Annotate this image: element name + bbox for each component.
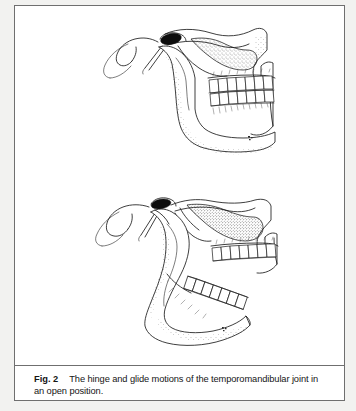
caption-body: The hinge and glide motions of the tempo… bbox=[34, 374, 318, 396]
lower-teeth-open bbox=[183, 272, 249, 313]
anatomy-illustrations bbox=[15, 6, 344, 365]
figure-frame: Fig. 2The hinge and glide motions of the… bbox=[14, 5, 345, 401]
illustration-area bbox=[15, 6, 344, 365]
figure-label: Fig. 2 bbox=[34, 374, 58, 384]
illustration-open-position bbox=[96, 198, 278, 346]
illustration-closed-position bbox=[104, 28, 275, 154]
caption-paragraph: Fig. 2The hinge and glide motions of the… bbox=[34, 373, 328, 398]
figure-caption: Fig. 2The hinge and glide motions of the… bbox=[15, 366, 344, 400]
